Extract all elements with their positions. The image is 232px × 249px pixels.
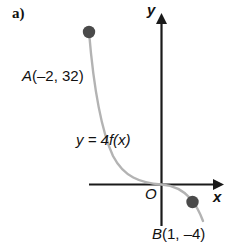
origin-label: O — [145, 186, 157, 201]
point-label-b: B(1, –4) — [152, 226, 205, 241]
point-label-a: A(–2, 32) — [22, 68, 84, 83]
point-label-b-name: B — [152, 225, 162, 242]
point-label-b-coords: (1, –4) — [162, 225, 205, 242]
curve-equation-function: f(x) — [109, 131, 131, 148]
x-axis-label: x — [213, 189, 221, 204]
y-axis-arrowhead — [156, 13, 167, 24]
point-label-a-name: A — [22, 67, 32, 84]
y-axis-label: y — [147, 2, 155, 17]
point-marker-b — [186, 196, 198, 208]
graph-figure: a) y x O A(–2, 32) B(1, –4) y = 4f(x) — [0, 0, 232, 249]
part-label: a) — [12, 6, 25, 21]
graph-canvas — [0, 0, 232, 249]
curve-equation-prefix: y = 4 — [76, 131, 109, 148]
point-label-a-coords: (–2, 32) — [32, 67, 84, 84]
curve-equation-label: y = 4f(x) — [76, 132, 131, 147]
point-marker-a — [83, 26, 95, 38]
y-axis — [156, 13, 167, 226]
